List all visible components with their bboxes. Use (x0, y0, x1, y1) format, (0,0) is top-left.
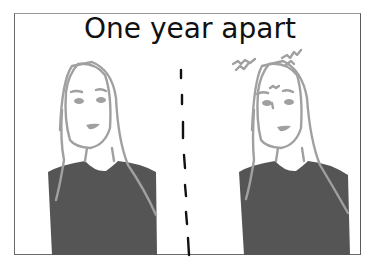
right-eye (284, 99, 294, 105)
face (66, 64, 111, 148)
shirt (48, 161, 157, 255)
mouth (277, 126, 291, 131)
mouth (86, 124, 100, 129)
figure-before (48, 62, 157, 255)
shirt (239, 161, 350, 255)
comic-artwork (0, 0, 376, 267)
right-eye (96, 97, 106, 103)
left-eye (262, 100, 272, 106)
left-eye (74, 98, 84, 104)
dashed-divider (181, 70, 189, 255)
figure-after (233, 50, 350, 255)
face (257, 64, 301, 148)
